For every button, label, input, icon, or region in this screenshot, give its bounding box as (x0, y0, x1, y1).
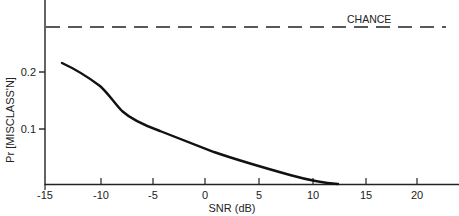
misclassification-curve (62, 63, 338, 184)
y-tick-label: 0.1 (21, 123, 36, 135)
x-tick-label: -15 (37, 189, 53, 201)
x-tick-label: 20 (411, 189, 423, 201)
x-tick-label: 0 (202, 189, 208, 201)
x-axis-title: SNR (dB) (208, 202, 255, 214)
x-tick-label: -10 (93, 189, 109, 201)
y-axis-title: Pr [MISCLASS'N] (4, 77, 16, 163)
x-tick-label: 10 (307, 189, 319, 201)
x-tick-label: 5 (256, 189, 262, 201)
x-tick-label: 15 (360, 189, 372, 201)
chance-label: CHANCE (347, 13, 391, 25)
chart: 0.2 0.1 -15 -10 -5 0 5 10 15 20 SNR (dB)… (0, 0, 459, 216)
y-tick-label: 0.2 (21, 66, 36, 78)
x-tick-label: -5 (148, 189, 158, 201)
